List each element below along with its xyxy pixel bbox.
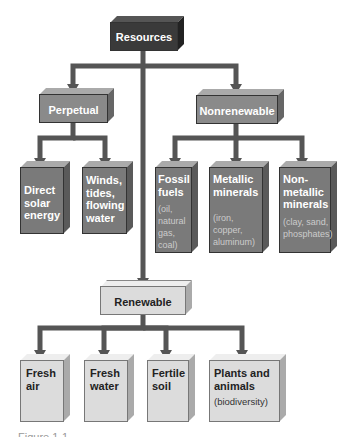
- leaf-fresh-water: Fresh water: [84, 354, 134, 422]
- leaf-title: Fertile soil: [152, 367, 184, 392]
- leaf-direct-solar-energy: Direct solar energy: [20, 161, 70, 234]
- category-node-renewable: Renewable: [100, 280, 192, 315]
- leaf-title: Direct solar energy: [24, 184, 64, 222]
- root-node-resources: Resources: [110, 16, 184, 51]
- leaf-detail: (biodiversity): [214, 396, 280, 409]
- leaf-title-text: Fossil fuels: [158, 173, 190, 198]
- leaf-metallic-minerals: Metallic minerals (iron, copper, aluminu…: [209, 161, 269, 253]
- leaf-fossil-fuels: Fossil fuels (oil, natural gas, coal): [155, 161, 198, 253]
- leaf-winds-tides-flowing-water: Winds, tides, flowing water: [82, 161, 133, 234]
- leaf-title: Non-metallic minerals (clay, sand, phosp…: [283, 173, 331, 240]
- leaf-title-text: Metallic minerals: [213, 173, 258, 198]
- leaf-detail: (iron, copper, aluminum): [213, 212, 263, 248]
- leaf-title: Metallic minerals (iron, copper, aluminu…: [213, 173, 263, 248]
- leaf-title-text: Non-metallic minerals: [283, 173, 328, 210]
- leaf-title: Plants and animals (biodiversity): [214, 367, 280, 409]
- category-node-nonrenewable: Nonrenewable: [196, 89, 284, 124]
- leaf-detail: (clay, sand, phosphates): [283, 216, 331, 240]
- leaf-plants-and-animals: Plants and animals (biodiversity): [209, 354, 286, 422]
- leaf-non-metallic-minerals: Non-metallic minerals (clay, sand, phosp…: [279, 161, 337, 253]
- leaf-detail: (oil, natural gas, coal): [158, 203, 192, 251]
- leaf-fresh-air: Fresh air: [20, 354, 70, 422]
- leaf-title: Fresh water: [90, 367, 124, 392]
- root-label: Resources: [110, 31, 178, 43]
- category-label: Renewable: [100, 296, 186, 308]
- category-label: Nonrenewable: [196, 105, 278, 117]
- leaf-fertile-soil: Fertile soil: [147, 354, 195, 422]
- leaf-title: Fresh air: [26, 367, 56, 392]
- category-node-perpetual: Perpetual: [39, 88, 114, 123]
- leaf-title-text: Plants and animals: [214, 367, 274, 392]
- figure-caption: Figure 1-1: [18, 431, 68, 437]
- category-label: Perpetual: [39, 104, 108, 116]
- leaf-title: Winds, tides, flowing water: [86, 174, 127, 224]
- leaf-title: Fossil fuels (oil, natural gas, coal): [158, 173, 192, 251]
